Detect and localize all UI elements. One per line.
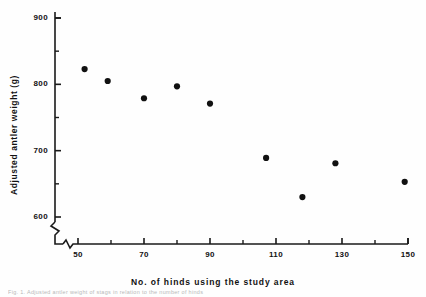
data-point	[207, 100, 213, 106]
y-axis-tick-label: 600	[14, 212, 48, 221]
data-point	[402, 179, 408, 185]
figure-caption: Fig. 1. Adjusted antler weight of stags …	[8, 289, 418, 295]
y-axis-tick-label: 900	[14, 13, 48, 22]
y-axis-tick-label: 800	[14, 79, 48, 88]
x-axis-tick-label: 130	[324, 250, 360, 259]
x-axis-title: No. of hinds using the study area	[0, 277, 426, 287]
data-point	[263, 155, 269, 161]
figure-container: Adjusted antler weight (g) No. of hinds …	[0, 0, 426, 297]
data-point	[141, 95, 147, 101]
data-point	[82, 66, 88, 72]
y-axis-title: Adjusted antler weight (g)	[9, 35, 19, 235]
data-point	[174, 83, 180, 89]
y-axis-tick-label: 700	[14, 146, 48, 155]
x-axis-break-icon	[63, 240, 78, 248]
data-point	[332, 160, 338, 166]
x-axis-tick-label: 70	[126, 250, 162, 259]
data-point	[299, 194, 305, 200]
x-axis-tick-label: 50	[60, 250, 96, 259]
data-point	[105, 78, 111, 84]
axis-corner	[55, 240, 63, 244]
x-axis-tick-label: 150	[390, 250, 426, 259]
x-axis-tick-label: 110	[258, 250, 294, 259]
y-axis-break-icon	[51, 222, 59, 240]
x-axis-tick-label: 90	[192, 250, 228, 259]
